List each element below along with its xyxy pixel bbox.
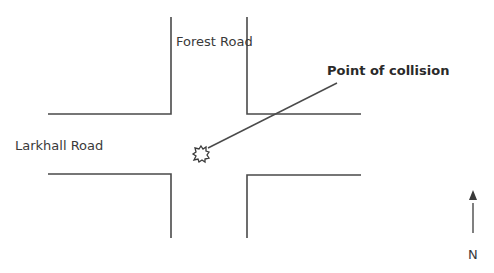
north-label: N bbox=[468, 247, 478, 262]
forest-road-label: Forest Road bbox=[176, 34, 253, 49]
larkhall-road-label: Larkhall Road bbox=[15, 138, 103, 153]
collision-pointer-line bbox=[208, 83, 337, 148]
road-edge-top-left bbox=[48, 17, 171, 114]
point-of-collision-label: Point of collision bbox=[327, 63, 449, 78]
collision-marker-icon bbox=[193, 146, 209, 162]
road-edge-bottom-right bbox=[247, 175, 361, 238]
road-edge-bottom-left bbox=[48, 174, 171, 238]
north-arrow-icon bbox=[469, 190, 477, 233]
